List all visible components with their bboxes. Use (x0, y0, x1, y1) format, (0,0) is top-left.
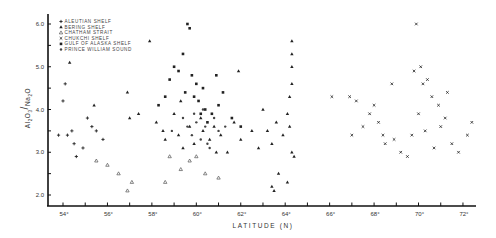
y-tick-label: 6.0 (36, 21, 45, 27)
x-tick-label: 56° (104, 211, 114, 217)
series-aleutian-shelf (57, 82, 105, 158)
legend-item: GULF OF ALASKA SHELF (60, 41, 131, 46)
legend-label: GULF OF ALASKA SHELF (65, 41, 132, 46)
legend-item: CHUKCHI SHELF (60, 36, 110, 41)
legend-item: ALEUTIAN SHELF (59, 19, 111, 24)
legend-label: CHUKCHI SHELF (65, 36, 110, 41)
series-chatham-strait (95, 155, 221, 192)
legend-label: PRINCE WILLIAM SOUND (65, 47, 132, 52)
series-prince-william-sound (171, 108, 227, 149)
legend: ALEUTIAN SHELFBERING SHELFCHATHAM STRAIT… (59, 19, 132, 52)
legend-item: PRINCE WILLIAM SOUND (60, 47, 132, 52)
x-tick-label: 72° (459, 211, 469, 217)
series-chukchi-shelf (331, 23, 474, 158)
x-ticks: 54°56°58°60°62°64°66°68°70°72° (59, 203, 469, 218)
x-axis-title: LATITUDE (N) (233, 222, 294, 230)
x-tick-label: 60° (193, 211, 203, 217)
legend-item: BERING SHELF (59, 25, 105, 30)
legend-label: BERING SHELF (65, 25, 106, 30)
x-tick-label: 58° (148, 211, 158, 217)
y-tick-label: 3.0 (36, 149, 45, 155)
x-tick-label: 70° (415, 211, 425, 217)
y-tick-label: 5.0 (36, 64, 45, 70)
scatter-plot: 2.03.04.05.06.0 54°56°58°60°62°64°66°68°… (0, 0, 496, 238)
legend-label: CHATHAM STRAIT (65, 30, 113, 35)
x-tick-label: 64° (282, 211, 292, 217)
x-tick-label: 54° (59, 211, 69, 217)
y-axis-title: Al2O3/Na2O (19, 88, 33, 129)
x-tick-label: 66° (326, 211, 336, 217)
y-tick-label: 2.0 (36, 192, 45, 198)
x-tick-label: 62° (237, 211, 247, 217)
legend-item: CHATHAM STRAIT (59, 30, 113, 35)
x-tick-label: 68° (371, 211, 381, 217)
y-tick-label: 4.0 (36, 107, 45, 113)
svg-text:Al2O3/Na2O: Al2O3/Na2O (19, 88, 33, 129)
legend-label: ALEUTIAN SHELF (65, 19, 112, 24)
series-gulf-of-alaska-shelf (157, 23, 242, 128)
